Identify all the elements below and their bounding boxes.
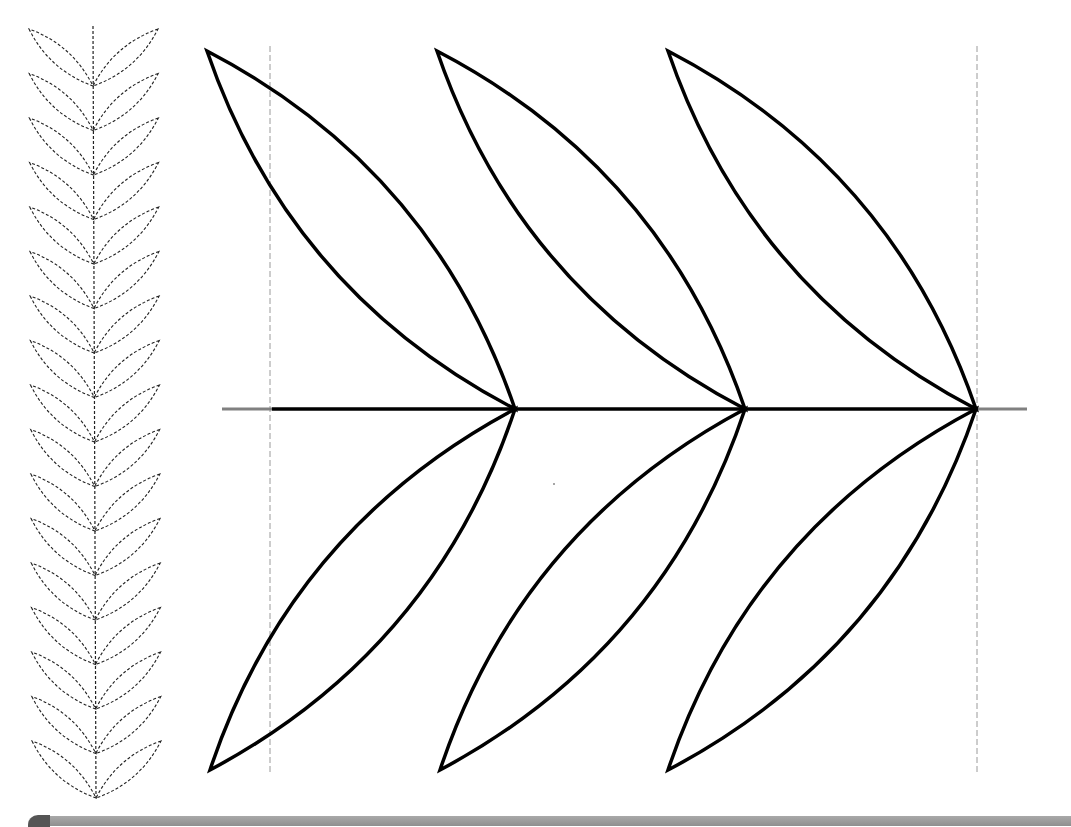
- strip-leaf-right: [96, 741, 161, 798]
- leaf-upper-3: [668, 51, 976, 409]
- dashed-garland-strip: [29, 26, 161, 798]
- leaf-lower-1: [210, 409, 515, 770]
- leaf-lower-3: [668, 409, 976, 770]
- leaf-upper-2: [437, 51, 745, 409]
- strip-stem: [93, 26, 96, 798]
- bottom-edge-bar-cap: [28, 815, 50, 827]
- scan-speck: [553, 483, 555, 485]
- bottom-edge-bar: [28, 816, 1071, 826]
- leaf-lower-2: [440, 409, 745, 770]
- leaf-upper-1: [207, 51, 515, 409]
